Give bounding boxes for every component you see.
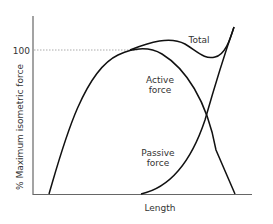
y-axis-label: % Maximum isometric force bbox=[15, 64, 25, 190]
total-curve bbox=[130, 27, 234, 58]
passive-label-line1: Passive bbox=[141, 148, 175, 158]
passive-label-line2: force bbox=[147, 158, 170, 168]
passive-force-curve bbox=[141, 27, 234, 194]
active-label-line1: Active bbox=[146, 75, 174, 85]
active-label-line2: force bbox=[149, 85, 172, 95]
length-tension-chart: 100 Total Active force Passive force Len… bbox=[0, 0, 273, 224]
x-axis-label: Length bbox=[144, 203, 175, 213]
y-tick-100: 100 bbox=[13, 46, 30, 56]
active-force-curve bbox=[49, 49, 235, 194]
total-label: Total bbox=[187, 35, 209, 45]
